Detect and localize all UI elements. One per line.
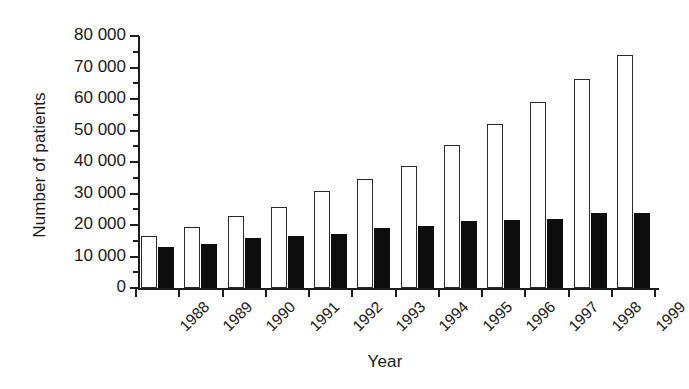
bar-filled-1999 (634, 213, 650, 288)
bar-open-1995 (444, 145, 460, 288)
y-tick-minor (133, 208, 139, 210)
y-tick-label: 20 000 (74, 214, 126, 234)
x-tick-label-1999: 1999 (652, 298, 689, 335)
x-tick (654, 288, 656, 297)
bar-filled-1998 (591, 213, 607, 288)
x-tick-label-1996: 1996 (522, 298, 559, 335)
x-tick (222, 288, 224, 297)
bar-filled-1989 (201, 244, 217, 288)
y-tick-minor (133, 271, 139, 273)
x-tick (178, 288, 180, 297)
bar-open-1994 (401, 166, 417, 288)
bar-filled-1990 (245, 238, 261, 288)
y-tick-label: 60 000 (74, 88, 126, 108)
y-tick-label: 80 000 (74, 25, 126, 45)
y-tick-major (130, 224, 139, 226)
bar-filled-1993 (374, 228, 390, 288)
x-tick (265, 288, 267, 297)
x-tick-label-1994: 1994 (435, 298, 472, 335)
y-tick-minor (133, 114, 139, 116)
y-tick-major (130, 130, 139, 132)
y-tick-label: 40 000 (74, 151, 126, 171)
bar-open-1989 (184, 227, 200, 288)
bar-filled-1991 (288, 236, 304, 288)
bar-open-1998 (574, 79, 590, 288)
y-tick-major (130, 35, 139, 37)
bar-filled-1995 (461, 221, 477, 288)
bar-filled-1996 (504, 220, 520, 288)
x-tick (481, 288, 483, 297)
bar-open-1990 (228, 216, 244, 288)
y-tick-major (130, 161, 139, 163)
x-axis-title: Year (330, 352, 440, 372)
y-tick-minor (133, 145, 139, 147)
y-tick-label: 50 000 (74, 120, 126, 140)
y-tick-major (130, 67, 139, 69)
x-tick (351, 288, 353, 297)
x-tick-label-1997: 1997 (565, 298, 602, 335)
x-tick (438, 288, 440, 297)
x-tick (568, 288, 570, 297)
y-tick-major (130, 98, 139, 100)
x-tick-origin (135, 288, 137, 297)
bar-open-1988 (141, 236, 157, 288)
x-tick (611, 288, 613, 297)
x-tick (395, 288, 397, 297)
x-tick-label-1993: 1993 (392, 298, 429, 335)
bar-open-1996 (487, 124, 503, 288)
y-tick-major (130, 193, 139, 195)
x-tick-label-1988: 1988 (176, 298, 213, 335)
y-tick-label: 70 000 (74, 57, 126, 77)
y-tick-label: 30 000 (74, 183, 126, 203)
bar-filled-1988 (158, 247, 174, 288)
x-tick (524, 288, 526, 297)
y-tick-minor (133, 240, 139, 242)
bar-open-1999 (617, 55, 633, 288)
bar-filled-1992 (331, 234, 347, 288)
y-axis-title: Number of patients (30, 45, 50, 285)
x-tick-label-1998: 1998 (608, 298, 645, 335)
y-tick-minor (133, 82, 139, 84)
bar-open-1997 (530, 102, 546, 288)
y-tick-label: 0 (117, 277, 126, 297)
x-axis-line (138, 288, 659, 290)
x-tick-label-1990: 1990 (262, 298, 299, 335)
x-tick-label-1989: 1989 (219, 298, 256, 335)
x-tick-label-1995: 1995 (479, 298, 516, 335)
bar-filled-1994 (418, 226, 434, 288)
bar-open-1991 (271, 207, 287, 288)
y-tick-major (130, 256, 139, 258)
bar-open-1992 (314, 191, 330, 288)
plot-area: 010 00020 00030 00040 00050 00060 00070 … (139, 36, 658, 288)
y-tick-minor (133, 51, 139, 53)
y-tick-label: 10 000 (74, 246, 126, 266)
x-tick-label-1992: 1992 (349, 298, 386, 335)
bar-filled-1997 (547, 219, 563, 288)
bar-open-1993 (357, 179, 373, 288)
x-tick-label-1991: 1991 (306, 298, 343, 335)
y-tick-minor (133, 177, 139, 179)
x-tick (308, 288, 310, 297)
